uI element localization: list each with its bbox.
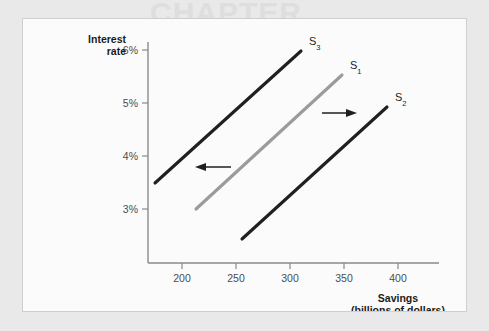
x-axis-ticks: 200 250 300 350 400 [173, 263, 407, 284]
y-axis-title-line1: Interest [88, 33, 126, 45]
y-axis-title: Interest rate [88, 33, 126, 57]
figure-panel: 6% 5% 4% 3% Interest rate 200 250 300 35… [22, 18, 467, 312]
curve-label-s3: S3 [309, 35, 321, 52]
x-tick-label-200: 200 [173, 272, 191, 284]
y-axis-title-line2: rate [107, 45, 126, 57]
supply-curves [155, 51, 387, 239]
savings-supply-chart: 6% 5% 4% 3% Interest rate 200 250 300 35… [23, 19, 466, 311]
y-tick-label-4: 4% [123, 150, 138, 162]
curve-labels: S3 S1 S2 [309, 35, 407, 108]
x-tick-label-400: 400 [389, 272, 407, 284]
x-axis-title-units: (billions of dollars) [351, 304, 445, 311]
rightward-arrow-head [346, 109, 357, 117]
leftward-arrow-head [195, 163, 206, 171]
x-tick-label-250: 250 [227, 272, 245, 284]
x-axis-title: Savings (billions of dollars) [351, 292, 445, 311]
curve-s1 [196, 75, 342, 209]
leftward-shift-arrow [195, 163, 231, 171]
curve-s3 [155, 51, 301, 183]
y-tick-label-5: 5% [123, 97, 138, 109]
x-tick-label-350: 350 [335, 272, 353, 284]
y-axis-ticks: 6% 5% 4% 3% [123, 44, 148, 215]
x-tick-label-300: 300 [281, 272, 299, 284]
x-axis-title-main: Savings [378, 292, 418, 304]
axis-group [148, 42, 439, 263]
curve-label-s1: S1 [350, 59, 362, 76]
shift-annotations [195, 109, 357, 171]
curve-label-s2: S2 [395, 91, 407, 108]
y-tick-label-3: 3% [123, 203, 138, 215]
rightward-shift-arrow [322, 109, 357, 117]
curve-s2 [242, 107, 387, 239]
